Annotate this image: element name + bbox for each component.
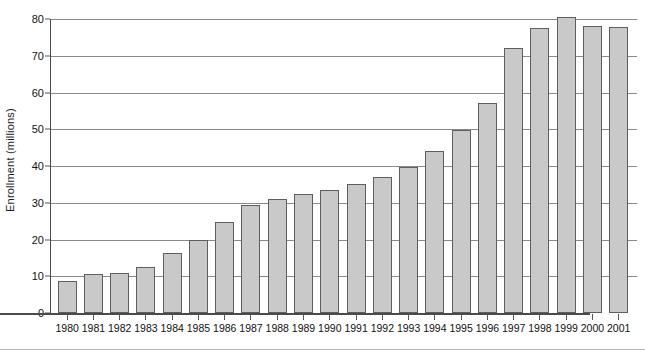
x-tick-label: 1984 <box>161 322 184 334</box>
x-tick-slot: 1991 <box>343 314 369 344</box>
bar <box>320 190 339 313</box>
x-tick-label: 1997 <box>502 322 525 334</box>
x-tick-label: 1995 <box>449 322 472 334</box>
bar <box>215 222 234 313</box>
x-tick-slot: 1988 <box>264 314 290 344</box>
bar <box>557 17 576 313</box>
x-tick-slot: 1980 <box>54 314 80 344</box>
bar-slot <box>369 19 395 313</box>
x-tick-mark <box>513 314 514 320</box>
x-tick-mark <box>461 314 462 320</box>
bar-slot <box>185 19 211 313</box>
bar <box>110 273 129 313</box>
x-tick-mark <box>119 314 120 320</box>
bar-slot <box>474 19 500 313</box>
bar <box>347 184 366 313</box>
x-tick-label: 1983 <box>134 322 157 334</box>
x-tick-label: 1987 <box>239 322 262 334</box>
x-tick-slot: 1997 <box>501 314 527 344</box>
x-tick-mark <box>329 314 330 320</box>
x-tick-slot: 1984 <box>159 314 185 344</box>
x-tick-label: 1996 <box>476 322 499 334</box>
bar <box>268 199 287 313</box>
x-tick-slot: 1995 <box>448 314 474 344</box>
x-tick-mark <box>618 314 619 320</box>
x-tick-mark <box>145 314 146 320</box>
x-tick-slot: 1994 <box>422 314 448 344</box>
x-tick-label: 2000 <box>581 322 604 334</box>
bar <box>399 167 418 313</box>
x-tick-mark <box>487 314 488 320</box>
y-tick-label: 10 <box>32 270 44 282</box>
x-tick-slot: 1992 <box>369 314 395 344</box>
x-tick-label: 1981 <box>82 322 105 334</box>
x-tick-mark <box>382 314 383 320</box>
bar-slot <box>422 19 448 313</box>
x-tick-label: 1990 <box>318 322 341 334</box>
y-tick-label: 20 <box>32 234 44 246</box>
x-tick-slot: 1981 <box>80 314 106 344</box>
x-tick-mark <box>539 314 540 320</box>
x-tick-label: 1993 <box>397 322 420 334</box>
x-tick-slot: 1996 <box>474 314 500 344</box>
x-tick-label: 1985 <box>187 322 210 334</box>
bar-series <box>50 19 636 313</box>
y-tick-label: 30 <box>32 197 44 209</box>
bar-slot <box>107 19 133 313</box>
x-tick-mark <box>250 314 251 320</box>
x-tick-slot: 1982 <box>107 314 133 344</box>
page-divider-rule <box>0 349 645 350</box>
bar <box>163 253 182 313</box>
bar <box>504 48 523 313</box>
x-tick-mark <box>198 314 199 320</box>
x-tick-label: 1999 <box>555 322 578 334</box>
bar <box>609 27 628 313</box>
x-tick-mark <box>592 314 593 320</box>
bar <box>136 267 155 313</box>
x-tick-label: 2001 <box>607 322 630 334</box>
x-tick-slot: 1999 <box>553 314 579 344</box>
y-tick-label: 40 <box>32 160 44 172</box>
bar-slot <box>501 19 527 313</box>
x-tick-label: 1988 <box>266 322 289 334</box>
x-tick-slot: 1993 <box>395 314 421 344</box>
bar-slot <box>343 19 369 313</box>
bar-slot <box>527 19 553 313</box>
bar <box>373 177 392 313</box>
bar <box>530 28 549 313</box>
bar-slot <box>238 19 264 313</box>
bar <box>478 103 497 313</box>
bar-slot <box>579 19 605 313</box>
bar <box>241 205 260 313</box>
x-tick-mark <box>93 314 94 320</box>
x-tick-slot: 1998 <box>527 314 553 344</box>
x-tick-mark <box>172 314 173 320</box>
x-tick-mark <box>277 314 278 320</box>
bar-slot <box>80 19 106 313</box>
x-tick-slot: 1987 <box>238 314 264 344</box>
x-tick-mark <box>303 314 304 320</box>
bar <box>84 274 103 313</box>
x-tick-label: 1982 <box>108 322 131 334</box>
bar-slot <box>606 19 632 313</box>
bar <box>583 26 602 313</box>
x-tick-label: 1991 <box>344 322 367 334</box>
x-tick-mark <box>224 314 225 320</box>
x-tick-slot: 1985 <box>185 314 211 344</box>
x-tick-slot: 2001 <box>606 314 632 344</box>
bar-slot <box>159 19 185 313</box>
bar-slot <box>317 19 343 313</box>
y-tick-label: 50 <box>32 123 44 135</box>
bar-slot <box>212 19 238 313</box>
x-tick-slot: 2000 <box>579 314 605 344</box>
x-tick-mark <box>408 314 409 320</box>
x-tick-label: 1989 <box>292 322 315 334</box>
x-tick-label: 1992 <box>371 322 394 334</box>
bar-slot <box>395 19 421 313</box>
x-tick-slot: 1990 <box>317 314 343 344</box>
x-tick-label: 1986 <box>213 322 236 334</box>
x-tick-slot: 1989 <box>290 314 316 344</box>
bar <box>58 281 77 313</box>
bar <box>452 130 471 313</box>
bar <box>294 194 313 313</box>
